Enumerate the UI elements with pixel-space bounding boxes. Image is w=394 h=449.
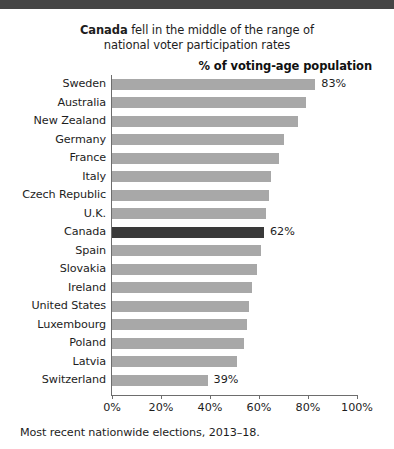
bar-category-label: Ireland: [0, 281, 106, 294]
bar-track: [112, 319, 357, 330]
bar-row: New Zealand: [0, 112, 394, 131]
bar-row: Slovakia: [0, 260, 394, 279]
bar-row: Italy: [0, 168, 394, 187]
x-axis-tick-label: 80%: [296, 401, 321, 414]
top-banner-bar: [0, 0, 394, 9]
chart-figure: Canada fell in the middle of the range o…: [0, 9, 394, 449]
bar-row: Germany: [0, 131, 394, 150]
bar-category-label: U.K.: [0, 207, 106, 220]
bar-row: Australia: [0, 94, 394, 113]
x-axis-tick-label: 0%: [103, 401, 121, 414]
bar: [112, 264, 257, 275]
bar-track: [112, 282, 357, 293]
bar-value-label: 39%: [214, 373, 239, 386]
bar-category-label: Sweden: [0, 77, 106, 90]
x-axis-tick-label: 40%: [198, 401, 223, 414]
bar-row: U.K.: [0, 205, 394, 224]
bar-track: [112, 171, 357, 182]
bar-category-label: Italy: [0, 170, 106, 183]
chart-footnote: Most recent nationwide elections, 2013–1…: [20, 426, 260, 439]
bar-track: [112, 264, 357, 275]
bar-row: Switzerland39%: [0, 371, 394, 390]
bar-category-label: New Zealand: [0, 114, 106, 127]
bar: [112, 301, 249, 312]
bar-chart-plot-area: Sweden83%AustraliaNew ZealandGermanyFran…: [0, 75, 394, 401]
bar-row: United States: [0, 297, 394, 316]
y-axis-line: [111, 75, 112, 395]
x-axis-tick: [210, 395, 211, 399]
bar-row: Canada62%: [0, 223, 394, 242]
bar-track: [112, 97, 357, 108]
bar-category-label: United States: [0, 299, 106, 312]
bar: [112, 319, 247, 330]
bar: [112, 282, 252, 293]
bar-row: Czech Republic: [0, 186, 394, 205]
bar-track: [112, 245, 357, 256]
bar-category-label: France: [0, 151, 106, 164]
bar-track: 83%: [112, 79, 357, 90]
bar: [112, 134, 284, 145]
x-axis-tick: [308, 395, 309, 399]
value-axis-title: % of voting-age population: [0, 59, 372, 73]
x-axis-tick: [259, 395, 260, 399]
bar-row: Latvia: [0, 353, 394, 372]
x-axis-tick-label: 100%: [341, 401, 373, 414]
bar: [112, 356, 237, 367]
bar: [112, 79, 315, 90]
bar: [112, 97, 306, 108]
bar-category-label: Switzerland: [0, 373, 106, 386]
bar-value-label: 62%: [270, 225, 295, 238]
bar-category-label: Canada: [0, 225, 106, 238]
bar-track: [112, 134, 357, 145]
bar-highlighted: [112, 227, 264, 238]
bar: [112, 338, 244, 349]
bar: [112, 171, 271, 182]
bar-row: France: [0, 149, 394, 168]
bar: [112, 153, 279, 164]
bar-track: [112, 208, 357, 219]
bar-row: Ireland: [0, 279, 394, 298]
bar: [112, 375, 208, 386]
bar-row: Luxembourg: [0, 316, 394, 335]
bar-track: [112, 301, 357, 312]
chart-title-line1-rest: fell in the middle of the range of: [128, 23, 314, 37]
bar-track: [112, 153, 357, 164]
bar-category-label: Luxembourg: [0, 318, 106, 331]
bar-row: Poland: [0, 334, 394, 353]
bar-track: 39%: [112, 375, 357, 386]
bar-value-label: 83%: [321, 77, 346, 90]
bar: [112, 190, 269, 201]
x-axis-line: [111, 395, 357, 396]
x-axis-tick: [161, 395, 162, 399]
bar-track: 62%: [112, 227, 357, 238]
bar: [112, 208, 266, 219]
x-axis-tick: [112, 395, 113, 399]
bar-category-label: Germany: [0, 133, 106, 146]
x-axis-tick: [357, 395, 358, 399]
bar: [112, 116, 298, 127]
x-axis-tick-label: 20%: [149, 401, 174, 414]
x-axis-tick-label: 60%: [247, 401, 272, 414]
bar-category-label: Spain: [0, 244, 106, 257]
bar-category-label: Poland: [0, 336, 106, 349]
bar: [112, 245, 261, 256]
bar-category-label: Czech Republic: [0, 188, 106, 201]
chart-title: Canada fell in the middle of the range o…: [26, 23, 368, 53]
bar-category-label: Latvia: [0, 355, 106, 368]
bar-track: [112, 190, 357, 201]
bar-row: Spain: [0, 242, 394, 261]
bar-track: [112, 116, 357, 127]
chart-title-highlight: Canada: [80, 23, 128, 37]
bar-category-label: Slovakia: [0, 262, 106, 275]
bar-track: [112, 356, 357, 367]
bar-track: [112, 338, 357, 349]
chart-title-line2: national voter participation rates: [104, 38, 290, 52]
bar-row: Sweden83%: [0, 75, 394, 94]
bar-category-label: Australia: [0, 96, 106, 109]
